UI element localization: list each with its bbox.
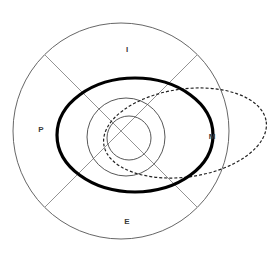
sector-label-bottom: E (124, 217, 130, 226)
diagram-canvas: I P M E (0, 0, 280, 264)
diagram-root: I P M E (0, 0, 280, 264)
sector-label-right: M (209, 132, 216, 141)
dashed-ellipse (98, 78, 273, 188)
sector-label-left: P (38, 125, 44, 134)
sector-label-top: I (126, 45, 128, 54)
inner-circle-outer (87, 98, 165, 176)
